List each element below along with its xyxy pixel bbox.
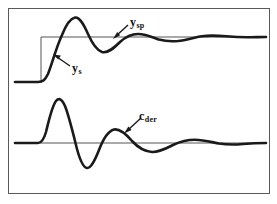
- curve-label-y-s-sub: s: [78, 67, 82, 76]
- curve-label-y-sp: ysp: [130, 13, 144, 30]
- curve-label-c-der-base: c: [139, 109, 145, 123]
- curve-label-y-s: ys: [72, 59, 82, 76]
- step-response-plot: [0, 0, 277, 204]
- figure-root: ysp ys cder: [0, 0, 277, 204]
- curve-label-y-sp-sub: sp: [136, 21, 144, 30]
- curve-label-c-der-sub: der: [145, 115, 157, 124]
- curve-label-c-der: cder: [139, 107, 157, 124]
